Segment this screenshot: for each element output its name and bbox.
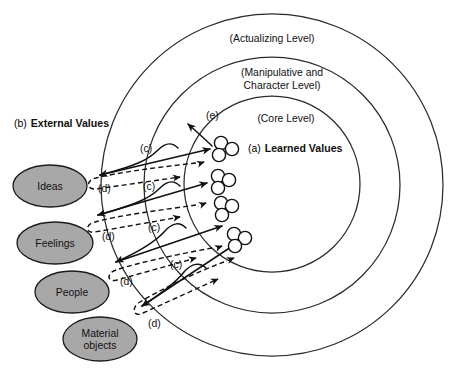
learned-values-text: (a)Learned Values [248,142,343,154]
source-people[interactable]: People [35,271,109,313]
source-ideas-label: Ideas [37,181,62,192]
flow-tag-c1: (c) [140,143,152,154]
flow-d3-dashed-head [214,246,222,249]
value-cluster-1 [212,136,238,161]
flow-group-3 [109,224,222,281]
source-feelings-label: Feelings [35,238,74,249]
ring-label-manipulative-line1: (Manipulative and [241,67,323,78]
flow-d2-dashed-head [198,203,206,206]
learned-values-label: (a)Learned Values [248,142,343,154]
flow-tag-d4: (d) [148,318,161,329]
flow-tag-d3: (d) [120,276,133,287]
value-node [225,142,238,155]
external-sources: Ideas Feelings People Material objects [13,165,137,361]
ring-label-manipulative-line2: Character Level) [244,80,321,91]
source-material-objects-label-line1: Material [82,328,119,339]
external-values-prefix: (b) [14,118,27,129]
flow-c4-solid-inbound [142,243,237,306]
flow-e-outward-arrow [188,124,212,146]
ring-label-actualizing: (Actualizing Level) [230,33,315,44]
source-material-objects-label-line2: objects [84,340,117,351]
source-people-label: People [56,287,89,298]
flow-tag-c2: (c) [143,181,155,192]
flow-tag-c4: (c) [170,259,182,270]
learned-values-title: Learned Values [265,142,343,154]
ring-labels: (Actualizing Level) (Manipulative and Ch… [230,33,324,124]
source-feelings[interactable]: Feelings [17,222,93,264]
flow-d1-dashed-head [198,162,204,164]
external-values-text: (b)External Values [14,117,109,129]
flow-tag-c3: (c) [148,222,160,233]
value-clusters [211,136,251,252]
value-node [211,181,224,194]
external-values-title: External Values [31,117,109,129]
source-material-objects-shape[interactable] [63,317,137,361]
flow-tag-d1: (d) [98,183,111,194]
source-material-objects[interactable]: Material objects [63,317,137,361]
flow-tag-d2: (d) [102,231,115,242]
value-cluster-2 [211,169,235,194]
learned-values-prefix: (a) [248,143,261,154]
value-node [228,239,241,252]
value-node [215,208,228,221]
value-node [212,148,225,161]
flow-group-1 [89,124,213,189]
source-ideas[interactable]: Ideas [13,165,87,207]
value-cluster-4 [227,227,251,252]
flow-tag-e: (e) [206,110,219,121]
value-cluster-3 [214,196,238,221]
flow-tags: (e) (c) (d) (c) (d) (c) (d) (c) (d) [98,110,219,329]
external-values-label: (b)External Values [14,117,109,129]
values-level-diagram: (Actualizing Level) (Manipulative and Ch… [0,0,465,369]
diagram-canvas: (Actualizing Level) (Manipulative and Ch… [0,0,465,369]
ring-label-core: (Core Level) [257,113,314,124]
